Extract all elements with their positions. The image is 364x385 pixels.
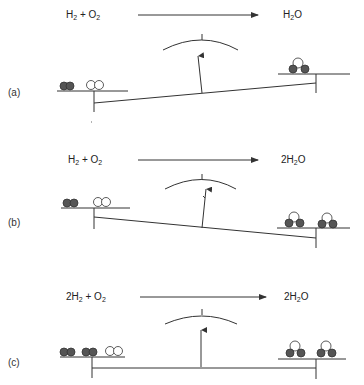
scale-arc [163, 40, 238, 50]
h2o-molecule-icon [318, 213, 337, 228]
balance-diagram [0, 0, 364, 385]
panel-label-b: (b) [8, 217, 20, 228]
o2-molecule-icon [94, 198, 111, 207]
reactants-equation-a: H2 + O2 [66, 10, 100, 21]
reactants-equation-b: H2 + O2 [68, 155, 102, 166]
products-equation-c: 2H2O [284, 292, 308, 303]
o2-molecule-icon [87, 81, 104, 90]
panel-label-a: (a) [8, 87, 20, 98]
products-equation-b: 2H2O [281, 155, 305, 166]
pointer-needle [198, 56, 202, 93]
h2o-molecule-icon [286, 341, 305, 357]
panel-c-molecules [60, 341, 336, 357]
h2-molecule-icon [82, 348, 97, 356]
h2-molecule-icon [60, 348, 75, 356]
panel-c [60, 297, 346, 379]
beam [94, 83, 316, 103]
h2o-molecule-icon [285, 212, 304, 227]
panel-a-molecules [60, 58, 309, 90]
h2o-molecule-icon [317, 341, 336, 357]
o2-molecule-icon [106, 347, 123, 356]
scale-arc [165, 180, 236, 190]
reactants-equation-c: 2H2 + O2 [66, 292, 106, 303]
panel-b-molecules [63, 198, 337, 229]
h2-molecule-icon [63, 199, 78, 207]
scale-arc [165, 316, 237, 324]
products-equation-a: H2O [283, 10, 302, 21]
h2-molecule-icon [60, 82, 74, 90]
pointer-needle [202, 189, 206, 228]
h2o-molecule-icon [289, 58, 309, 73]
panel-label-c: (c) [8, 357, 20, 368]
